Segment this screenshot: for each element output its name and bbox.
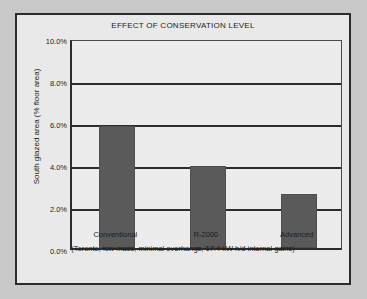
bar <box>281 194 317 248</box>
plot-area: 0.0%2.0%4.0%6.0%8.0%10.0% <box>70 40 342 250</box>
x-tick-label: Conventional <box>93 230 137 239</box>
y-tick-label: 8.0% <box>50 79 67 88</box>
y-axis-title: South glazed area (% floor area) <box>32 42 41 212</box>
y-tick-label: 10.0% <box>46 37 67 46</box>
gridline <box>72 83 341 85</box>
x-axis-subtitle: (Toronto, low mass, minimal overhangs, 1… <box>17 244 349 253</box>
chart-title: EFFECT OF CONSERVATION LEVEL <box>17 21 349 30</box>
x-tick-label: Advanced <box>280 230 313 239</box>
y-tick-label: 4.0% <box>50 163 67 172</box>
x-tick-label: R-2000 <box>194 230 219 239</box>
chart-figure: EFFECT OF CONSERVATION LEVEL South glaze… <box>15 13 351 285</box>
y-tick-label: 6.0% <box>50 121 67 130</box>
y-tick-label: 2.0% <box>50 205 67 214</box>
